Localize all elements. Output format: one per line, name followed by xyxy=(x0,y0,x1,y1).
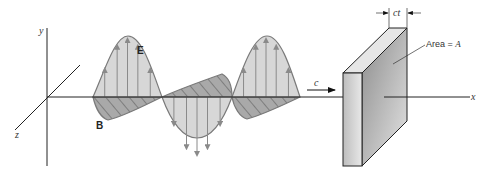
x-axis-label: x xyxy=(471,92,475,102)
area-label-symbol: A xyxy=(455,39,461,49)
b-field-lobe-3 xyxy=(232,97,300,119)
diagram-canvas xyxy=(0,0,482,177)
speed-label: c xyxy=(314,78,318,88)
b-field-label-text: B xyxy=(96,121,103,131)
e-field-label: E xyxy=(137,46,144,56)
area-label: Area = A xyxy=(426,40,461,49)
b-field-lobe-1 xyxy=(93,97,162,120)
thickness-label: ct xyxy=(393,8,400,18)
z-axis-label: z xyxy=(15,130,19,140)
slab-front-face xyxy=(343,73,362,166)
em-wave-diagram: y z x E B c ct Area = A xyxy=(0,0,482,177)
y-axis-label: y xyxy=(39,26,43,36)
b-field-lobe-2 xyxy=(162,74,232,97)
area-label-prefix: Area = xyxy=(426,39,455,49)
